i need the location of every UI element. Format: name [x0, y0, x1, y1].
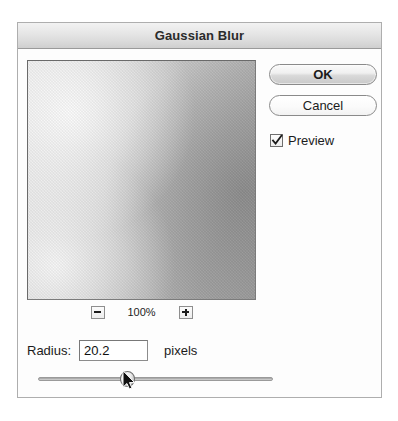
preview-zoom-controls: 100%	[27, 304, 256, 320]
blur-preview-box[interactable]	[27, 60, 256, 300]
ok-button-label: OK	[313, 67, 333, 82]
zoom-out-button[interactable]	[91, 306, 105, 319]
zoom-level-label: 100%	[105, 306, 179, 318]
checkmark-icon	[271, 134, 284, 148]
dialog-title: Gaussian Blur	[155, 28, 244, 43]
radius-slider[interactable]	[38, 371, 273, 387]
preview-toggle-row[interactable]: Preview	[270, 133, 334, 148]
radius-field-row: Radius: pixels	[27, 339, 197, 361]
ok-button[interactable]: OK	[269, 64, 377, 85]
dialog-titlebar: Gaussian Blur	[18, 23, 381, 49]
blur-preview-grain	[28, 61, 255, 299]
gaussian-blur-dialog: Gaussian Blur 100% OK Cancel Preview Rad…	[17, 22, 382, 398]
preview-checkbox-label: Preview	[288, 133, 334, 148]
radius-slider-thumb[interactable]	[120, 371, 135, 387]
zoom-in-button[interactable]	[179, 306, 193, 319]
radius-label: Radius:	[27, 343, 71, 358]
preview-checkbox[interactable]	[270, 134, 283, 147]
cancel-button-label: Cancel	[303, 98, 343, 113]
radius-units-label: pixels	[164, 343, 197, 358]
cancel-button[interactable]: Cancel	[269, 95, 377, 116]
radius-slider-track[interactable]	[38, 377, 273, 381]
radius-input[interactable]	[79, 340, 148, 361]
